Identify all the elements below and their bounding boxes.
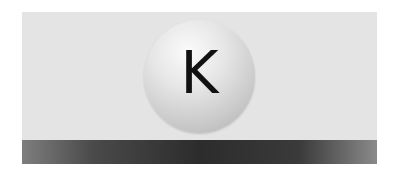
atom-symbol-label: K <box>144 38 255 108</box>
potassium-atom-sphere: K <box>144 20 255 133</box>
surface-bar <box>22 140 377 164</box>
